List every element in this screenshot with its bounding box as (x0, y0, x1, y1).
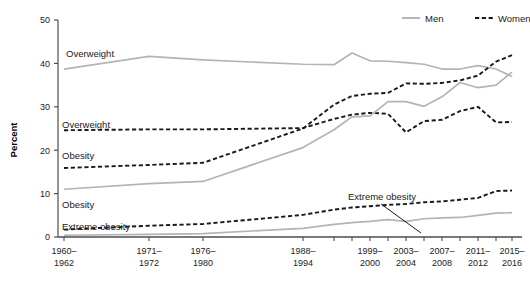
legend-label-men: Men (425, 13, 443, 24)
health-trends-line-chart: 01020304050 1960–19621971–19721976–19801… (0, 0, 530, 291)
x-axis-tick-label: 1980 (193, 258, 213, 268)
x-axis-tick-label: 1960– (51, 246, 76, 256)
y-axis-tick-label: 0 (45, 232, 50, 242)
x-axis-tick-label: 1962 (54, 258, 74, 268)
x-axis-tick-label: 2016 (502, 258, 522, 268)
annotation-women-overweight-label: Overweight (62, 119, 110, 130)
y-axis-title: Percent (8, 122, 19, 158)
x-axis-tick-label: 2004 (396, 258, 416, 268)
x-axis-tick-label: 1976– (190, 246, 215, 256)
annotation-men-obesity-label: Obesity (62, 199, 94, 210)
y-axis-tick-label: 20 (40, 146, 50, 156)
y-axis-tick-label: 40 (40, 59, 50, 69)
annotation-women-extreme-label: Extreme obesity (62, 221, 130, 232)
x-axis-tick-label: 1988– (290, 246, 315, 256)
x-axis-tick-label: 2003– (393, 246, 418, 256)
y-axis-tick-label: 10 (40, 189, 50, 199)
y-axis-tick-label: 50 (40, 15, 50, 25)
x-axis-tick-label: 1972 (139, 258, 159, 268)
chart-container: 01020304050 1960–19621971–19721976–19801… (0, 0, 530, 291)
legend-label-women: Women (498, 13, 530, 24)
x-axis-tick-label: 2000 (360, 258, 380, 268)
annotation-men-overweight-label: Overweight (66, 48, 114, 59)
x-axis-tick-label: 2007– (429, 246, 454, 256)
x-axis-tick-label: 2008 (432, 258, 452, 268)
x-axis-tick-label: 2015– (499, 246, 524, 256)
x-axis-tick-label: 2011– (466, 246, 490, 256)
annotation-women-obesity-label: Obesity (62, 150, 94, 161)
x-axis-tick-label: 1999– (357, 246, 382, 256)
x-axis-tick-label: 2012 (468, 258, 488, 268)
y-axis-tick-label: 30 (40, 102, 50, 112)
x-axis-tick-label: 1971– (136, 246, 161, 256)
annotation-men-extreme-label: Extreme obesity (348, 191, 416, 202)
x-axis-tick-label: 1994 (293, 258, 313, 268)
